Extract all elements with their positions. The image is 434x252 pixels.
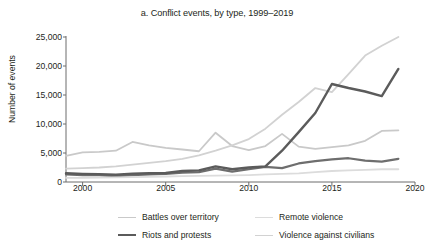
x-axis-tick-labels: 20002005201020152020 <box>0 183 434 197</box>
series-line <box>66 37 398 169</box>
legend-swatch-icon <box>118 234 136 236</box>
chart-title: a. Conflict events, by type, 1999–2019 <box>0 8 434 18</box>
x-tick-label: 2010 <box>229 183 269 193</box>
x-tick-label: 2005 <box>146 183 186 193</box>
plot-svg <box>0 24 434 204</box>
legend-swatch-icon <box>118 217 136 218</box>
series-line <box>66 130 398 156</box>
chart-figure: a. Conflict events, by type, 1999–2019 N… <box>0 0 434 252</box>
plot-area: Number of events 05,00010,00015,00020,00… <box>0 24 434 204</box>
x-tick-label: 2000 <box>63 183 103 193</box>
x-tick-label: 2015 <box>312 183 352 193</box>
legend-item[interactable]: Battles over territory <box>118 210 219 224</box>
legend-item[interactable]: Violence against civilians <box>255 228 374 242</box>
legend-label: Violence against civilians <box>279 231 374 240</box>
legend-item[interactable]: Riots and protests <box>118 228 211 242</box>
legend-label: Riots and protests <box>142 231 211 240</box>
legend-swatch-icon <box>255 217 273 218</box>
legend-swatch-icon <box>255 235 273 236</box>
x-tick-label: 2020 <box>395 183 434 193</box>
chart-legend: Battles over territoryRemote violenceRio… <box>0 208 434 248</box>
legend-label: Remote violence <box>279 213 343 222</box>
legend-label: Battles over territory <box>142 213 219 222</box>
legend-item[interactable]: Remote violence <box>255 210 343 224</box>
